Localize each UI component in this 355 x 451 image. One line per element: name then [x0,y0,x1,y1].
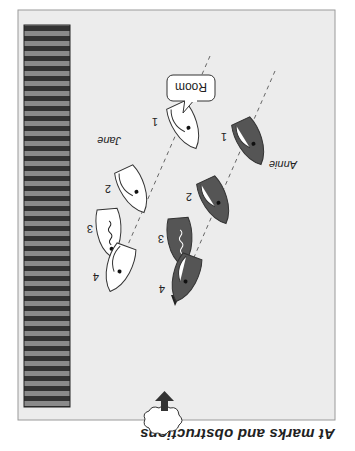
jane-label: Jane [97,135,122,147]
sailing-diagram: At marks and obstructions [0,0,355,451]
annie-pos-2: 2 [186,191,192,203]
diagram-canvas: Room Jane Annie 1 2 3 4 1 2 3 4 [0,0,355,451]
jane-pos-2: 2 [105,183,111,195]
room-label: Room [175,80,207,94]
annie-pos-3: 3 [158,233,164,245]
annie-label: Annie [269,159,298,171]
jane-pos-3: 3 [87,223,93,235]
obstruction-bar [24,25,70,407]
jane-pos-1: 1 [152,116,158,128]
jane-pos-4: 4 [93,271,99,283]
annie-pos-1: 1 [221,131,227,143]
annie-pos-4: 4 [159,283,165,295]
